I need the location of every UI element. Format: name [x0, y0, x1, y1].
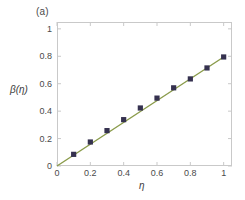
y-tick-label: 0.8: [39, 51, 52, 61]
data-point-marker: [138, 105, 143, 110]
data-point-marker: [204, 65, 209, 70]
y-axis-tick-labels: 00.20.40.60.81: [26, 22, 52, 166]
x-tick-label: 0: [54, 168, 59, 178]
data-point-marker: [171, 85, 176, 90]
x-tick-label: 0.4: [117, 168, 130, 178]
data-point-marker: [104, 128, 109, 133]
y-tick-label: 0.6: [39, 79, 52, 89]
data-point-marker: [121, 117, 126, 122]
y-tick-label: 0.4: [39, 106, 52, 116]
x-tick-label: 0.8: [184, 168, 197, 178]
y-tick-label: 0: [47, 161, 52, 171]
figure-panel-a: (a) β(η) 00.20.40.60.81 00.20.40.60.81 η: [0, 0, 245, 200]
data-point-marker: [188, 76, 193, 81]
fit-line-group: [57, 57, 224, 166]
x-tick-label: 0.2: [84, 168, 97, 178]
plot-area: [57, 22, 232, 166]
x-tick-label: 0.6: [151, 168, 164, 178]
y-tick-label: 1: [47, 24, 52, 34]
x-tick-label: 1: [221, 168, 226, 178]
x-axis-label: η: [139, 180, 145, 191]
panel-label: (a): [36, 6, 49, 17]
data-point-marker: [221, 54, 226, 59]
fit-line: [57, 57, 224, 166]
data-point-marker: [154, 96, 159, 101]
data-point-marker: [88, 139, 93, 144]
y-tick-label: 0.2: [39, 134, 52, 144]
data-point-marker: [71, 152, 76, 157]
tick-marks: [57, 22, 232, 166]
